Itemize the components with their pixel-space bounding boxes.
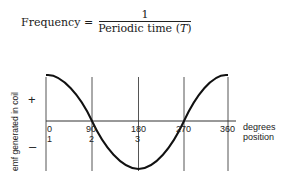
tick-360: 360 — [220, 124, 235, 134]
position-1: 1 — [47, 134, 52, 144]
tick-0: 0 — [47, 124, 52, 134]
position-2: 2 — [89, 134, 94, 144]
x-tick-labels: 0 90 180 270 360 — [47, 124, 235, 134]
x-label-degrees: degrees — [243, 122, 276, 132]
x-label-position: position — [243, 132, 274, 142]
plus-marker: + — [28, 92, 36, 107]
position-3: 3 — [135, 134, 140, 144]
minus-marker: – — [29, 139, 37, 154]
tick-270: 270 — [176, 124, 191, 134]
emf-chart: emf generated in coil + – 0 90 180 270 3… — [0, 0, 293, 188]
emf-curve — [46, 75, 228, 169]
y-axis-label: emf generated in coil — [10, 92, 20, 171]
position-labels: 1 2 3 — [47, 134, 140, 144]
tick-180: 180 — [131, 124, 146, 134]
tick-90: 90 — [86, 124, 96, 134]
